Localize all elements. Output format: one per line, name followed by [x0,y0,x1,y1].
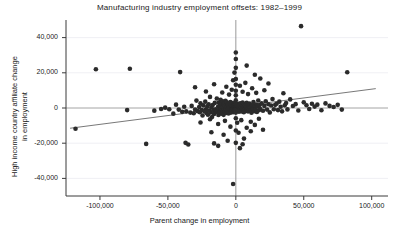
data-point [200,113,205,118]
y-tick-label: -40,000 [14,174,58,181]
data-point [262,88,267,93]
data-point [278,104,283,109]
data-point [184,109,189,114]
data-point [327,104,332,109]
y-tick-label: 20,000 [14,68,58,75]
data-point [94,67,99,72]
data-point [299,24,304,29]
data-point [234,66,239,71]
data-point [231,182,236,187]
data-point [270,97,275,102]
data-point [296,108,301,113]
y-axis-title-line2: in employment [19,92,28,141]
data-point [183,141,188,146]
data-point [281,91,286,96]
data-point [272,107,277,112]
data-point [225,138,230,143]
data-point [242,136,247,141]
data-point [232,70,237,75]
data-point [229,87,234,92]
data-point [234,57,239,62]
data-point [269,103,274,108]
data-point [234,50,239,55]
x-tick-label: -100,000 [70,202,130,209]
data-point [258,76,263,81]
data-point [125,108,130,113]
data-point [198,120,203,125]
data-point [248,119,253,124]
data-point [257,116,262,121]
plot-canvas [0,0,399,234]
x-tick-label: 50,000 [274,202,334,209]
data-point [128,66,133,71]
data-point [193,85,198,90]
y-axis-title: High income country affiliate change in … [10,37,29,197]
data-point [253,123,258,128]
data-point [238,84,243,89]
data-point [234,93,239,98]
data-point [250,86,255,91]
scatter-plot-figure: Manufacturing industry employment offset… [0,0,399,234]
data-point [244,125,249,130]
data-point [280,109,285,114]
data-point [216,122,221,127]
data-point [315,102,320,107]
data-point [152,108,157,113]
data-point [239,118,244,123]
data-point [212,101,217,106]
data-point [234,116,239,121]
x-axis-title: Parent change in employment [0,216,399,225]
data-point [288,97,293,102]
data-point [209,130,214,135]
y-tick-label: 0 [14,104,58,111]
data-point [171,111,176,116]
data-point [220,90,225,95]
data-point [73,126,78,131]
data-point [178,70,183,75]
data-point [277,99,282,104]
data-point [304,103,309,108]
y-tick-label: -20,000 [14,139,58,146]
data-point [261,109,266,114]
data-point [253,72,258,77]
data-point [262,104,267,109]
data-point [208,95,213,100]
data-point [268,110,273,115]
data-point [243,81,248,86]
data-point [208,117,213,122]
data-point [224,84,229,89]
data-point [204,89,209,94]
data-point [235,120,240,125]
data-point [340,107,345,112]
data-point [231,78,236,83]
data-point [323,101,328,106]
data-point [246,92,251,97]
data-point [234,88,239,93]
data-point [319,108,324,113]
data-point [228,124,233,129]
data-point [240,90,245,95]
data-point [144,142,149,147]
y-tick-label: 40,000 [14,33,58,40]
data-point [212,82,217,87]
data-point [248,129,253,134]
data-point [189,104,194,109]
data-point [221,132,226,137]
data-point [212,141,217,146]
x-tick-label: -50,000 [138,202,198,209]
data-point [180,110,185,115]
data-point [223,119,228,124]
data-point [216,144,221,149]
data-point [182,104,187,109]
data-point [194,98,199,103]
data-point [254,91,259,96]
data-point [234,82,239,87]
data-point [335,103,340,108]
data-point [174,102,179,107]
data-point [163,105,168,110]
data-point [234,141,239,146]
data-point [345,70,350,75]
data-point [266,81,271,86]
data-point [159,107,164,112]
data-point [227,92,232,97]
